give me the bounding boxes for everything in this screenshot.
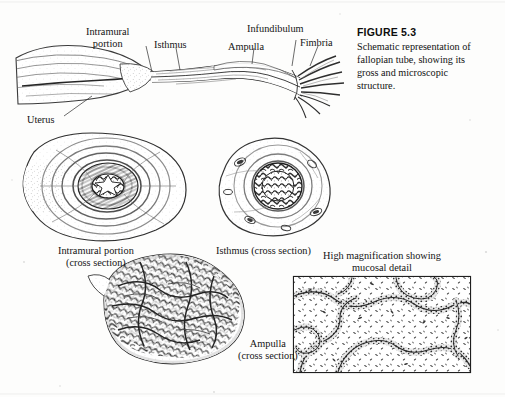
gross-anatomy-drawing (10, 40, 344, 118)
label-isthmus-cross-section: Isthmus (cross section) (216, 245, 311, 257)
label-intramural-cross-section: Intramural portion(cross section) (58, 245, 134, 268)
figure-canvas: Intramuralportion Isthmus Ampulla Infund… (0, 0, 505, 397)
label-ampulla-cross-section: Ampulla(cross section) (238, 338, 298, 361)
isthmus-cross-section-drawing (219, 138, 330, 236)
uterus-drawing (10, 46, 156, 104)
label-intramural-portion: Intramuralportion (86, 26, 129, 49)
figure-number: FIGURE 5.3 (357, 26, 416, 38)
label-mucosal-detail-line1: High magnification showing (323, 250, 441, 261)
intramural-cross-section-drawing (12, 133, 186, 241)
label-ampulla: Ampulla (228, 41, 264, 53)
label-intramural-cross-section-line1: Intramural portion (58, 245, 134, 256)
label-mucosal-detail-title: High magnification showingmucosal detail (301, 250, 463, 273)
label-infundibulum: Infundibulum (247, 23, 304, 35)
figure-caption: Schematic representation of fallopian tu… (357, 41, 487, 92)
label-intramural-cross-section-line2: (cross section) (66, 257, 126, 268)
label-ampulla-cross-section-line1: Ampulla (250, 338, 286, 349)
label-uterus: Uterus (27, 114, 54, 126)
label-fimbria: Fimbria (300, 37, 333, 49)
label-ampulla-cross-section-line2: (cross section) (238, 350, 298, 361)
label-mucosal-detail-line2: mucosal detail (352, 262, 412, 273)
label-intramural-portion-line2: portion (93, 38, 123, 49)
fallopian-tube-drawing (150, 61, 302, 96)
mucosal-detail-inset (294, 277, 471, 373)
label-intramural-portion-line1: Intramural (86, 26, 129, 37)
label-isthmus: Isthmus (154, 39, 187, 51)
